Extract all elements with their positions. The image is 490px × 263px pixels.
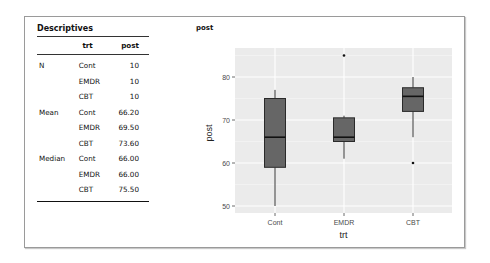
descriptives-table-block: Descriptives trt post NCont10EMDR10CBT10… [37,22,149,202]
cell-stat: Mean [37,105,79,121]
cell-value: 69.50 [118,120,149,136]
cell-trt: Cont [79,58,119,74]
y-tick-label: 50 [222,203,230,210]
cell-trt: CBT [79,136,119,152]
table-row: CBT10 [37,89,149,105]
descriptives-body: NCont10EMDR10CBT10MeanCont66.20EMDR69.50… [37,58,149,198]
y-axis-title: post [204,124,214,142]
plot-title: post [196,24,213,32]
x-tick-label: CBT [406,219,421,226]
cell-trt: CBT [79,182,119,198]
box-cont [265,99,286,168]
table-row: EMDR66.00 [37,167,149,183]
cell-stat [37,167,79,183]
cell-stat: N [37,58,79,74]
table-header-row: trt post [37,37,149,54]
outlier-point [412,162,415,165]
cell-trt: CBT [79,89,119,105]
cell-stat [37,89,79,105]
column-header-post: post [121,37,149,54]
descriptives-title: Descriptives [37,22,149,36]
table-row: EMDR69.50 [37,120,149,136]
descriptives-table: trt post [37,37,149,54]
cell-stat [37,120,79,136]
cell-stat: Median [37,151,79,167]
x-axis-title: trt [340,230,348,240]
cell-value: 66.00 [118,167,149,183]
column-header-trt: trt [77,37,121,54]
y-tick-label: 70 [222,117,230,124]
table-row: NCont10 [37,58,149,74]
outlier-point [343,54,346,57]
column-header-stat [37,37,77,54]
table-bottom-rule [37,201,149,202]
table-row: CBT73.60 [37,136,149,152]
boxplot-chart: 50607080ContEMDRCBTtrtpost [195,40,465,245]
cell-value: 73.60 [118,136,149,152]
cell-trt: Cont [79,151,119,167]
cell-value: 66.00 [118,151,149,167]
box-cbt [403,88,424,112]
y-tick-label: 80 [222,74,230,81]
table-row: CBT75.50 [37,182,149,198]
cell-value: 66.20 [118,105,149,121]
table-row: MedianCont66.00 [37,151,149,167]
cell-stat [37,74,79,90]
cell-value: 10 [118,74,149,90]
cell-trt: EMDR [79,167,119,183]
cell-value: 10 [118,58,149,74]
table-row: MeanCont66.20 [37,105,149,121]
cell-value: 10 [118,89,149,105]
cell-trt: EMDR [79,74,119,90]
cell-stat [37,136,79,152]
x-tick-label: Cont [268,219,283,226]
cell-trt: Cont [79,105,119,121]
cell-stat [37,182,79,198]
cell-trt: EMDR [79,120,119,136]
x-tick-label: EMDR [334,219,355,226]
cell-value: 75.50 [118,182,149,198]
table-row: EMDR10 [37,74,149,90]
y-tick-label: 60 [222,160,230,167]
